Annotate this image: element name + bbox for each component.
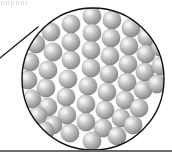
sphere-body bbox=[83, 7, 101, 25]
sphere-specular-highlight bbox=[65, 54, 71, 59]
sphere-specular-highlight bbox=[86, 10, 92, 15]
sphere-specular-highlight bbox=[106, 14, 112, 19]
sphere bbox=[44, 43, 62, 61]
sphere bbox=[98, 83, 116, 101]
sphere-specular-highlight bbox=[85, 44, 91, 49]
sphere-body bbox=[62, 33, 80, 51]
sphere-body bbox=[102, 29, 120, 47]
sphere bbox=[119, 55, 137, 73]
sphere-body bbox=[82, 41, 100, 59]
sphere-body bbox=[83, 132, 101, 150]
sphere-body bbox=[103, 11, 121, 29]
sphere-specular-highlight bbox=[115, 112, 121, 117]
sphere-specular-highlight bbox=[65, 18, 71, 23]
sphere bbox=[39, 61, 57, 79]
sphere bbox=[102, 29, 120, 47]
sphere-specular-highlight bbox=[32, 110, 38, 115]
sphere-specular-highlight bbox=[125, 22, 131, 27]
sphere-specular-highlight bbox=[101, 86, 107, 91]
sphere-specular-highlight bbox=[82, 80, 88, 85]
sphere-specular-highlight bbox=[60, 91, 66, 96]
sphere bbox=[82, 59, 100, 77]
sphere-specular-highlight bbox=[119, 94, 125, 99]
sphere bbox=[57, 88, 75, 106]
sphere-specular-highlight bbox=[47, 46, 53, 51]
sphere-body bbox=[39, 61, 57, 79]
sphere-specular-highlight bbox=[42, 101, 48, 106]
sphere-body bbox=[42, 23, 60, 41]
sphere-specular-highlight bbox=[65, 36, 71, 41]
sphere-body bbox=[83, 24, 101, 42]
sphere-specular-highlight bbox=[140, 48, 146, 53]
sphere-specular-highlight bbox=[105, 32, 111, 37]
sphere-body bbox=[130, 99, 148, 117]
sphere-body bbox=[98, 83, 116, 101]
sphere-specular-highlight bbox=[127, 119, 133, 124]
sphere bbox=[62, 33, 80, 51]
sphere bbox=[61, 124, 79, 142]
sphere-specular-highlight bbox=[155, 60, 161, 65]
sphere-body bbox=[59, 70, 77, 88]
sphere-body bbox=[122, 19, 140, 37]
sphere-specular-highlight bbox=[22, 74, 28, 79]
sphere bbox=[77, 95, 95, 113]
sphere bbox=[96, 101, 114, 119]
sphere bbox=[83, 7, 101, 25]
sphere bbox=[118, 73, 136, 91]
sphere-body bbox=[57, 88, 75, 106]
sphere-body bbox=[62, 51, 80, 69]
sphere bbox=[101, 47, 119, 65]
sphere-specular-highlight bbox=[139, 66, 145, 71]
sphere-specular-highlight bbox=[133, 102, 139, 107]
sphere-specular-highlight bbox=[137, 84, 143, 89]
sphere-specular-highlight bbox=[97, 122, 103, 127]
sphere-specular-highlight bbox=[62, 73, 68, 78]
sphere bbox=[62, 51, 80, 69]
sphere-body bbox=[62, 15, 80, 33]
sphere-body bbox=[118, 73, 136, 91]
sphere bbox=[62, 15, 80, 33]
sphere-specular-highlight bbox=[40, 82, 46, 87]
sphere-specular-highlight bbox=[103, 68, 109, 73]
sphere-body bbox=[77, 95, 95, 113]
sphere-specular-highlight bbox=[26, 93, 32, 98]
sphere bbox=[120, 37, 138, 55]
sphere-specular-highlight bbox=[85, 62, 91, 67]
sphere bbox=[83, 132, 101, 150]
sphere bbox=[103, 11, 121, 29]
sphere bbox=[100, 65, 118, 83]
sphere-specular-highlight bbox=[45, 26, 51, 31]
sphere bbox=[122, 19, 140, 37]
sphere bbox=[82, 41, 100, 59]
sphere-specular-highlight bbox=[86, 135, 92, 140]
sphere bbox=[151, 38, 169, 56]
sphere-specular-highlight bbox=[151, 78, 157, 83]
sphere-body bbox=[120, 37, 138, 55]
sphere-body bbox=[44, 43, 62, 61]
figure-canvas bbox=[0, 0, 172, 158]
sphere-body bbox=[61, 124, 79, 142]
sphere bbox=[124, 116, 142, 134]
sphere-body bbox=[100, 65, 118, 83]
sphere-body bbox=[79, 77, 97, 95]
sphere-body bbox=[151, 38, 169, 56]
sphere bbox=[83, 24, 101, 42]
sphere-specular-highlight bbox=[80, 116, 86, 121]
sphere-specular-highlight bbox=[64, 127, 70, 132]
sphere-body bbox=[96, 101, 114, 119]
sphere-specular-highlight bbox=[86, 27, 92, 32]
sphere-body bbox=[82, 59, 100, 77]
sphere-body bbox=[77, 113, 95, 131]
sphere-specular-highlight bbox=[42, 64, 48, 69]
sphere bbox=[77, 113, 95, 131]
sphere-body bbox=[101, 47, 119, 65]
sphere-specular-highlight bbox=[121, 76, 127, 81]
sphere-packing-figure: Magnified view of close-packed spheres o… bbox=[0, 0, 172, 158]
sphere bbox=[130, 99, 148, 117]
sphere bbox=[79, 77, 97, 95]
sphere bbox=[59, 70, 77, 88]
sphere-body bbox=[119, 55, 137, 73]
sphere-specular-highlight bbox=[61, 109, 67, 114]
sphere-specular-highlight bbox=[80, 98, 86, 103]
sphere-specular-highlight bbox=[104, 50, 110, 55]
